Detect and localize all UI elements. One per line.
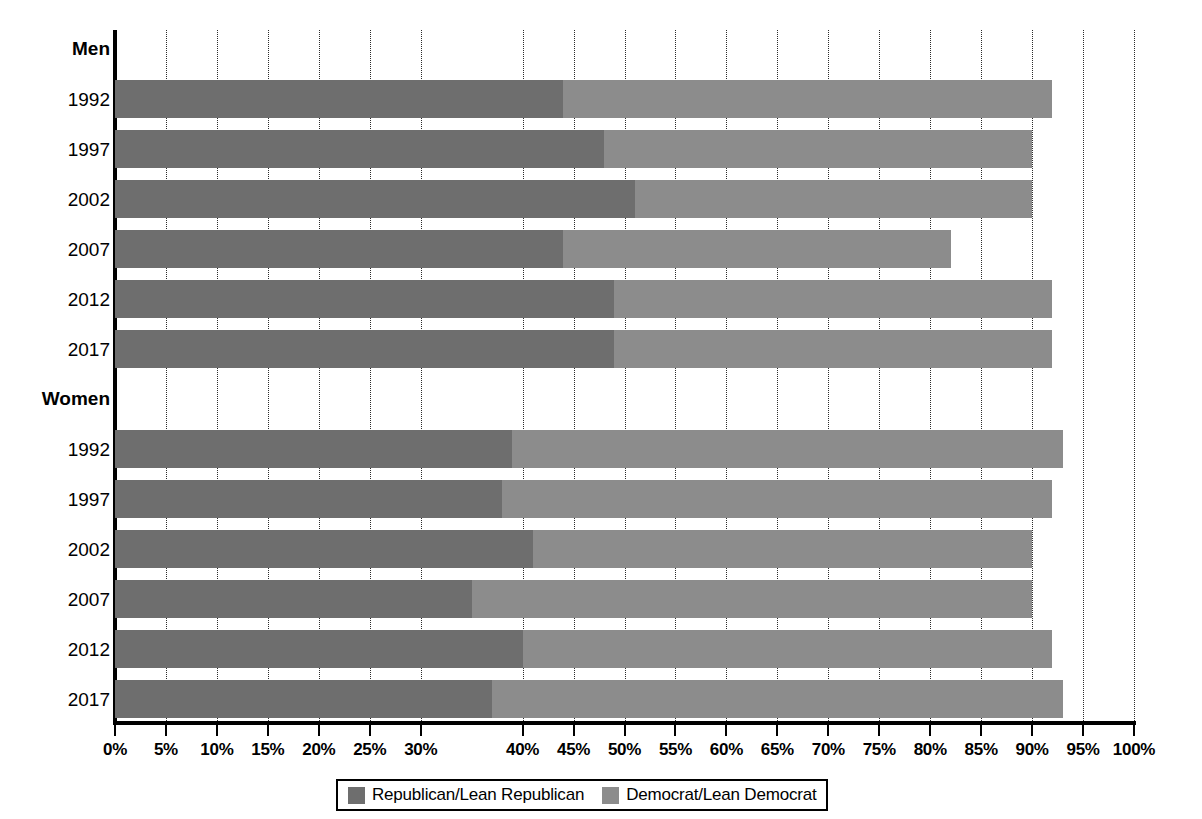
group-label-women: Women [42,389,110,408]
x-axis-tick-label: 20% [302,740,335,760]
bar-segment-republican[interactable] [115,480,502,518]
bar-segment-democrat[interactable] [512,430,1062,468]
bar-segment-republican[interactable] [115,130,604,168]
x-axis-tick [216,725,218,736]
gridline [1134,30,1136,721]
bar-segment-republican[interactable] [115,680,492,718]
bar-segment-republican[interactable] [115,330,614,368]
y-axis-label-men-2017: 2017 [68,340,110,359]
bar-segment-democrat[interactable] [614,330,1052,368]
x-axis-tick [929,725,931,736]
y-axis-label-women-1992: 1992 [68,440,110,459]
x-axis-tick [878,725,880,736]
x-axis-tick [267,725,269,736]
x-axis-tick-label: 40% [506,740,539,760]
bar-segment-democrat[interactable] [614,280,1052,318]
y-axis-label-men-1992: 1992 [68,90,110,109]
bar-segment-republican[interactable] [115,630,523,668]
y-axis-label-men-2007: 2007 [68,240,110,259]
x-axis-tick-label: 50% [608,740,641,760]
x-axis-tick-label: 100% [1113,740,1155,760]
x-axis-tick [165,725,167,736]
bar-segment-democrat[interactable] [563,230,950,268]
x-axis-tick [1133,725,1135,736]
bar-segment-republican[interactable] [115,230,563,268]
x-axis-tick-label: 10% [200,740,233,760]
legend-item-republican[interactable]: Republican/Lean Republican [348,785,584,805]
x-axis-tick [725,725,727,736]
bar-segment-republican[interactable] [115,430,512,468]
x-axis-tick [980,725,982,736]
x-axis-tick [624,725,626,736]
y-axis-label-women-2012: 2012 [68,640,110,659]
bar-segment-democrat[interactable] [523,630,1053,668]
x-axis-tick [776,725,778,736]
y-axis-label-women-2007: 2007 [68,590,110,609]
y-axis-label-women-2017: 2017 [68,690,110,709]
x-axis-tick [827,725,829,736]
bar-segment-republican[interactable] [115,80,563,118]
x-axis-tick [1082,725,1084,736]
y-axis-label-women-1997: 1997 [68,490,110,509]
x-axis-tick-label: 85% [965,740,998,760]
x-axis-tick-label: 75% [863,740,896,760]
bar-segment-democrat[interactable] [502,480,1052,518]
x-axis-tick [420,725,422,736]
bar-segment-republican[interactable] [115,280,614,318]
gridline [1032,30,1034,721]
x-axis-tick [522,725,524,736]
y-axis-label-men-2012: 2012 [68,290,110,309]
bar-segment-democrat[interactable] [533,530,1032,568]
bar-segment-republican[interactable] [115,580,472,618]
x-axis-tick-label: 80% [914,740,947,760]
x-axis-tick-label: 95% [1066,740,1099,760]
bar-segment-democrat[interactable] [472,580,1032,618]
x-axis-tick-label: 30% [404,740,437,760]
x-axis-tick [573,725,575,736]
x-axis-tick-label: 70% [812,740,845,760]
x-axis-tick-label: 45% [557,740,590,760]
stacked-bar-chart: 0%5%10%15%20%25%30%40%45%50%55%60%65%70%… [0,0,1202,819]
legend-swatch-republican [348,787,365,804]
x-axis-tick [369,725,371,736]
legend-label-republican: Republican/Lean Republican [372,785,584,805]
y-axis-label-men-2002: 2002 [68,190,110,209]
x-axis-tick-label: 65% [761,740,794,760]
legend-item-democrat[interactable]: Democrat/Lean Democrat [602,785,816,805]
bar-segment-democrat[interactable] [563,80,1052,118]
x-axis-tick [1031,725,1033,736]
x-axis-tick-label: 15% [251,740,284,760]
bar-segment-republican[interactable] [115,530,533,568]
x-axis-tick-label: 60% [710,740,743,760]
bar-segment-democrat[interactable] [604,130,1032,168]
x-axis-tick-label: 25% [353,740,386,760]
bar-segment-democrat[interactable] [635,180,1032,218]
group-label-men: Men [72,39,110,58]
x-axis-tick [674,725,676,736]
bar-segment-republican[interactable] [115,180,635,218]
legend-swatch-democrat [602,787,619,804]
x-axis-tick-label: 0% [103,740,127,760]
y-axis-label-men-1997: 1997 [68,140,110,159]
x-axis-tick-label: 55% [659,740,692,760]
y-axis-label-women-2002: 2002 [68,540,110,559]
bar-segment-democrat[interactable] [492,680,1063,718]
x-axis-tick [114,725,116,736]
chart-legend: Republican/Lean Republican Democrat/Lean… [336,779,828,811]
legend-label-democrat: Democrat/Lean Democrat [626,785,816,805]
x-axis-tick [318,725,320,736]
x-axis-tick-label: 5% [154,740,178,760]
gridline [1083,30,1085,721]
x-axis-tick-label: 90% [1016,740,1049,760]
